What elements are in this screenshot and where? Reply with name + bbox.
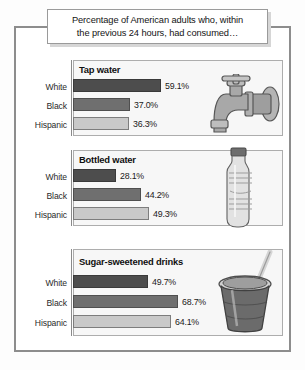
faucet-icon (196, 74, 282, 136)
row-label-white: White (8, 82, 67, 92)
bar-value-tap-water-hispanic: 36.3% (133, 119, 157, 129)
bar-value-sugar-drinks-white: 49.7% (152, 277, 176, 287)
bar-value-bottled-water-hispanic: 49.3% (153, 209, 177, 219)
panel-axis-tap-water (71, 60, 72, 136)
bar-value-bottled-water-black: 44.2% (145, 190, 169, 200)
row-label-hispanic: Hispanic (2, 120, 67, 130)
row-label-black: Black (8, 101, 67, 111)
page-title: Percentage of American adults who, withi… (68, 14, 247, 39)
row-label-white: White (8, 172, 67, 182)
bar-value-bottled-water-white: 28.1% (120, 171, 144, 181)
panel-title-bottled-water: Bottled water (79, 154, 136, 165)
row-label-black: Black (8, 298, 67, 308)
bar-tap-water-black (73, 98, 130, 111)
row-label-white: White (8, 278, 67, 288)
bar-bottled-water-hispanic (73, 207, 149, 220)
row-label-hispanic: Hispanic (2, 210, 67, 220)
chart-title-callout: Percentage of American adults who, withi… (47, 9, 268, 44)
bar-sugar-drinks-black (73, 295, 178, 308)
bar-value-sugar-drinks-black: 68.7% (182, 297, 206, 307)
soda-cup-icon (212, 250, 284, 338)
bar-tap-water-hispanic (73, 117, 129, 130)
panel-axis-sugar-drinks (71, 249, 72, 336)
row-label-hispanic: Hispanic (2, 318, 67, 328)
chart-title-line-1: Percentage of American adults who, withi… (72, 15, 243, 25)
bar-sugar-drinks-white (73, 275, 148, 288)
row-label-black: Black (8, 191, 67, 201)
panel-axis-bottled-water (71, 150, 72, 226)
bar-bottled-water-white (73, 169, 116, 182)
panel-title-sugar-drinks: Sugar-sweetened drinks (79, 256, 183, 267)
panel-title-tap-water: Tap water (79, 64, 120, 75)
bar-value-tap-water-white: 59.1% (165, 81, 189, 91)
bar-tap-water-white (73, 79, 161, 92)
chart-title-line-2: the previous 24 hours, had consumed… (77, 28, 238, 38)
bar-value-sugar-drinks-hispanic: 64.1% (175, 317, 199, 327)
infographic-figure: Percentage of American adults who, withi… (0, 0, 305, 370)
water-bottle-icon (217, 147, 263, 229)
bar-sugar-drinks-hispanic (73, 315, 171, 328)
bar-bottled-water-black (73, 188, 141, 201)
bar-value-tap-water-black: 37.0% (134, 100, 158, 110)
